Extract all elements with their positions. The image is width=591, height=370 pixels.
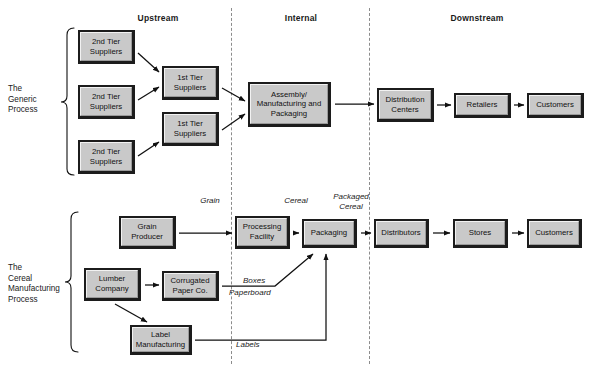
node-label: Stores xyxy=(468,228,493,238)
node-2nd-tier-suppliers-b[interactable]: 2nd Tier Suppliers xyxy=(78,85,135,119)
node-1st-tier-suppliers-a[interactable]: 1st Tier Suppliers xyxy=(162,66,219,100)
node-label: Distributors xyxy=(380,228,421,238)
cereal-process-brace xyxy=(65,212,78,352)
column-header-upstream: Upstream xyxy=(138,13,179,23)
node-2nd-tier-suppliers-a[interactable]: 2nd Tier Suppliers xyxy=(78,30,135,64)
column-header-downstream: Downstream xyxy=(450,13,503,23)
supply-chain-diagram: Upstream Internal Downstream The Generic… xyxy=(0,0,591,370)
node-label: 2nd Tier Suppliers xyxy=(89,92,124,111)
edge-1st-a-to-assembly xyxy=(222,88,245,101)
node-label: Grain Producer xyxy=(130,222,164,241)
node-packaging[interactable]: Packaging xyxy=(302,219,357,248)
generic-process-brace xyxy=(61,28,74,175)
flow-note-boxes: Boxes xyxy=(243,276,265,286)
internal-downstream-divider xyxy=(369,8,370,364)
node-2nd-tier-suppliers-c[interactable]: 2nd Tier Suppliers xyxy=(78,140,135,174)
flow-note-labels: Labels xyxy=(236,340,260,350)
node-label: 2nd Tier Suppliers xyxy=(89,147,124,166)
node-corrugated-paper-co[interactable]: Corrugated Paper Co. xyxy=(162,271,219,301)
node-customers-cereal[interactable]: Customers xyxy=(527,219,582,248)
edge-2nd-c-to-1st-b xyxy=(138,142,159,156)
node-processing-facility[interactable]: Processing Facility xyxy=(235,216,290,249)
node-customers-generic[interactable]: Customers xyxy=(527,93,584,118)
node-label-manufacturing[interactable]: Label Manufacturing xyxy=(130,325,192,355)
flow-note-packaged-cereal: Packaged Cereal xyxy=(333,192,369,212)
node-grain-producer[interactable]: Grain Producer xyxy=(119,216,176,249)
flow-note-paperboard: Paperboard xyxy=(229,288,271,298)
node-label: Lumber Company xyxy=(94,274,129,293)
edge-2nd-a-to-1st-a xyxy=(138,53,159,72)
node-label: Label Manufacturing xyxy=(135,330,186,349)
node-stores[interactable]: Stores xyxy=(453,219,508,248)
node-distribution-centers[interactable]: Distribution Centers xyxy=(377,88,434,122)
node-label: Corrugated Paper Co. xyxy=(169,276,210,295)
flow-note-cereal: Cereal xyxy=(284,196,308,206)
node-1st-tier-suppliers-b[interactable]: 1st Tier Suppliers xyxy=(162,112,219,146)
node-label: Packaging xyxy=(310,228,348,238)
node-label: Distribution Centers xyxy=(385,95,426,114)
node-label: 1st Tier Suppliers xyxy=(173,119,208,138)
flow-note-grain: Grain xyxy=(200,196,220,206)
edge-2nd-b-to-1st-a xyxy=(138,87,159,100)
node-label: Assembly/ Manufacturing and Packaging xyxy=(256,90,323,119)
node-label: Customers xyxy=(535,100,575,110)
cereal-process-label: The Cereal Manufacturing Process xyxy=(8,263,60,305)
column-header-internal: Internal xyxy=(285,13,317,23)
node-label: Customers xyxy=(534,228,574,238)
node-retailers[interactable]: Retailers xyxy=(454,93,511,118)
node-label: Processing Facility xyxy=(242,222,283,241)
node-assembly-manufacturing-packaging[interactable]: Assembly/ Manufacturing and Packaging xyxy=(248,82,331,127)
node-label: 1st Tier Suppliers xyxy=(173,73,208,92)
edge-lumber-to-label-mfg xyxy=(115,304,147,322)
edge-1st-b-to-assembly xyxy=(222,114,245,130)
node-lumber-company[interactable]: Lumber Company xyxy=(84,268,141,301)
node-label: Retailers xyxy=(466,100,499,110)
generic-process-label: The Generic Process xyxy=(8,84,38,116)
node-distributors[interactable]: Distributors xyxy=(374,219,429,248)
node-label: 2nd Tier Suppliers xyxy=(89,37,124,56)
edge-corrugated-to-packaging xyxy=(222,254,313,286)
upstream-internal-divider xyxy=(231,8,232,364)
